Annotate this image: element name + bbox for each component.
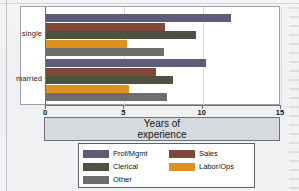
- x-tick-label-5: 5: [121, 108, 125, 117]
- x-tick-label-15: 15: [276, 108, 284, 117]
- x-axis-title: Years of experience: [138, 118, 187, 140]
- legend-swatch-icon: [83, 150, 109, 158]
- bar-single-prof-mgmt: [46, 14, 231, 22]
- bar-single-other: [46, 48, 164, 56]
- legend-item-labor-ops[interactable]: Labor/Ops: [169, 162, 255, 171]
- x-axis: [45, 105, 280, 109]
- legend-grid: Prof/MgmtSalesClericalLabor/OpsOther: [83, 147, 250, 186]
- bar-single-labor-ops: [46, 40, 127, 48]
- x-axis-title-box: Years of experience: [44, 117, 280, 141]
- bar-married-clerical: [46, 76, 173, 84]
- legend-swatch-icon: [169, 163, 195, 171]
- gridline-15: [281, 7, 282, 105]
- x-axis-line: [45, 105, 280, 106]
- x-axis-title-line2: experience: [138, 129, 187, 140]
- bar-single-sales: [46, 23, 165, 31]
- y-tick-label-single: single: [0, 29, 42, 38]
- x-axis-title-line1: Years of: [144, 118, 180, 129]
- x-tick-label-10: 10: [197, 108, 205, 117]
- legend-item-prof-mgmt[interactable]: Prof/Mgmt: [83, 149, 169, 158]
- legend-label: Sales: [199, 149, 218, 158]
- y-tick-label-married: married: [0, 74, 42, 83]
- chart-legend: Prof/MgmtSalesClericalLabor/OpsOther: [78, 143, 255, 188]
- bar-married-labor-ops: [46, 85, 129, 93]
- legend-item-other[interactable]: Other: [83, 175, 169, 184]
- legend-swatch-icon: [83, 176, 109, 184]
- legend-swatch-icon: [83, 163, 109, 171]
- bar-married-prof-mgmt: [46, 59, 206, 67]
- scan-artifact-top: [0, 3, 299, 4]
- legend-item-clerical[interactable]: Clerical: [83, 162, 169, 171]
- legend-item-sales[interactable]: Sales: [169, 149, 255, 158]
- scan-artifact-right-margin: [289, 0, 299, 191]
- legend-label: Prof/Mgmt: [113, 149, 148, 158]
- legend-swatch-icon: [169, 150, 195, 158]
- x-tick-label-0: 0: [43, 108, 47, 117]
- bar-single-clerical: [46, 31, 196, 39]
- bar-married-other: [46, 93, 167, 101]
- legend-label: Clerical: [113, 162, 138, 171]
- chart-plot-area: [46, 7, 281, 105]
- legend-label: Labor/Ops: [199, 162, 234, 171]
- chart-plot-frame: [20, 6, 280, 105]
- legend-label: Other: [113, 175, 132, 184]
- bar-married-sales: [46, 68, 156, 76]
